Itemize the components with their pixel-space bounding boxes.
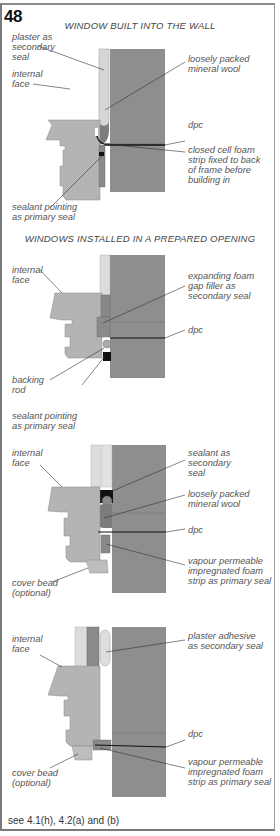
label-closed-cell-foam: closed cell foam strip fixed to back of … (188, 145, 260, 185)
label-expanding-foam: expanding foam gap filler as secondary s… (188, 271, 254, 301)
label-vapour-permeable: vapour permeable impregnated foam strip … (188, 556, 271, 586)
label-cover-bead: cover bead (optional) (12, 768, 58, 788)
label-internal-face: internal face (12, 69, 43, 89)
label-cover-bead: cover bead (optional) (12, 578, 58, 598)
label-mineral-wool: loosely packed mineral wool (188, 54, 250, 74)
figure-caption: see 4.1(h), 4.2(a) and (b) (8, 815, 119, 826)
label-vapour-permeable: vapour permeable impregnated foam strip … (188, 757, 271, 787)
label-internal-face: internal face (12, 448, 43, 468)
label-mineral-wool: loosely packed mineral wool (188, 489, 250, 509)
label-sealant-secondary: sealant as secondary seal (188, 448, 231, 478)
label-plaster-secondary-seal: plaster as secondary seal (12, 32, 55, 62)
label-internal-face: internal face (12, 265, 43, 285)
label-backing-rod: backing rod (12, 375, 44, 395)
label-dpc: dpc (188, 525, 203, 535)
label-dpc: dpc (188, 729, 203, 739)
label-dpc: dpc (188, 120, 203, 130)
label-dpc: dpc (188, 325, 203, 335)
label-sealant-primary: sealant pointing as primary seal (12, 411, 77, 431)
label-sealant-primary: sealant pointing as primary seal (12, 202, 77, 222)
label-internal-face: internal face (12, 634, 43, 654)
label-plaster-adhesive: plaster adhesive as secondary seal (188, 631, 263, 651)
diagram-prepared-opening (0, 225, 280, 385)
